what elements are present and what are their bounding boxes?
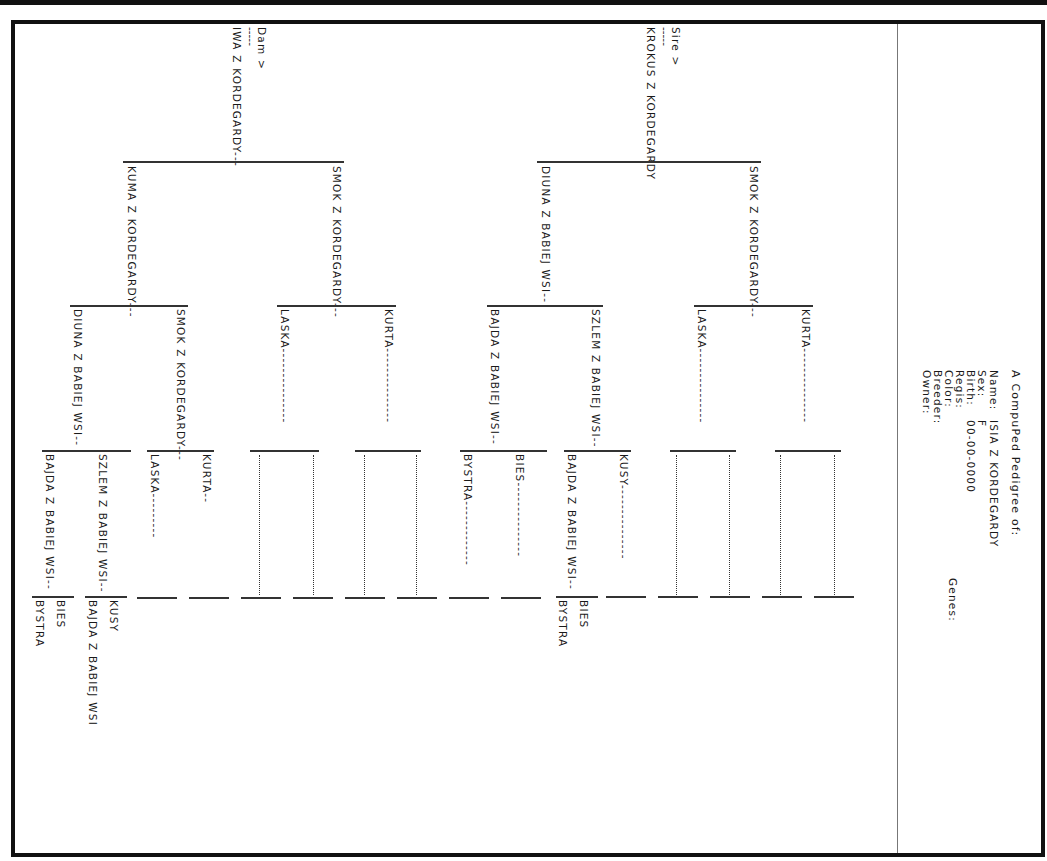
ssd-gen4-bar	[670, 450, 736, 452]
dam-gen2-bar	[123, 161, 344, 163]
sdsd-gen5-bar	[556, 596, 598, 598]
pedigree-connector	[834, 455, 835, 595]
pedigree-connector	[313, 455, 314, 595]
pedigree-connector	[729, 455, 730, 595]
sdss-name: KUSY---------------	[618, 454, 629, 560]
dddd-gen5-bar	[32, 596, 74, 598]
sddd-name: BYSTRA-------------	[462, 454, 473, 566]
dddd-name: BAJDA Z BABIEJ WSI--	[44, 454, 55, 590]
empty-gen5-bar	[293, 597, 333, 599]
regis-label: Regis:	[954, 370, 965, 409]
dam-heading: Dam >	[256, 27, 267, 70]
sss-name: KURTA---------------	[800, 309, 811, 423]
sire-sire-gen3-bar	[694, 305, 813, 307]
dam-name: IWA Z KORDEGARDY---	[231, 27, 242, 167]
info-panel-divider	[897, 24, 898, 853]
sire-heading: Sire >	[670, 27, 681, 66]
ddds-name: SZLEM Z BABIEJ WSI--	[97, 454, 108, 593]
previous-page-edge	[0, 0, 1047, 5]
sdd-name: BAJDA Z BABIEJ WSI--	[489, 309, 500, 445]
ddss-name: KURTA--	[201, 454, 212, 503]
breeder-label: Breeder:	[932, 370, 943, 425]
sdsdd-name: BYSTRA	[557, 600, 568, 647]
sire-dashes: -----	[659, 27, 670, 46]
pedigree-connector	[259, 455, 260, 595]
empty-gen5-bar	[189, 597, 229, 599]
birth-value: 00-00-0000	[965, 420, 976, 493]
sss-gen4-bar	[775, 450, 841, 452]
sire-name: KROKUS Z KORDEGARDY	[645, 27, 656, 180]
ddds-gen5-bar	[85, 596, 127, 598]
dam-dam-name: KUMA Z KORDEGARDY---	[126, 166, 137, 318]
dam-dam-gen3-bar	[70, 305, 188, 307]
sire-gen2-bar	[537, 161, 761, 163]
empty-gen5-bar	[345, 597, 385, 599]
dddss-name: KUSY	[108, 600, 119, 632]
sdds-name: BIES---------------	[514, 454, 525, 557]
ddddd-name: BYSTRA	[34, 600, 45, 647]
empty-gen5-bar	[137, 597, 177, 599]
ddd-name: DIUNA Z BABIEJ WSI--	[72, 309, 83, 446]
sdsds-name: BIES	[578, 600, 589, 628]
document-title: A CompuPed Pedigree of:	[1010, 370, 1021, 536]
sdd-gen4-bar	[460, 450, 547, 452]
dddsd-name: BAJDA Z BABIEJ WSI	[87, 600, 98, 726]
ddd-gen4-bar	[42, 450, 131, 452]
owner-label: Owner:	[921, 370, 932, 415]
color-label: Color:	[943, 370, 954, 408]
empty-gen5-bar	[658, 596, 698, 598]
empty-gen5-bar	[762, 596, 802, 598]
pedigree-connector	[780, 455, 781, 595]
sire-dam-gen3-bar	[487, 305, 603, 307]
name-label: Name:	[988, 370, 999, 411]
empty-gen5-bar	[241, 597, 281, 599]
empty-gen5-bar	[606, 596, 646, 598]
dds-name: SMOK Z KORDEGARDY---	[175, 309, 186, 461]
sex-label: Sex:	[976, 370, 987, 398]
dsd-name: LASKA---------------	[279, 309, 290, 423]
name-value: ISIA Z KORDEGARDY	[988, 420, 999, 547]
empty-gen5-bar	[397, 597, 437, 599]
sds-gen4-bar	[564, 450, 631, 452]
dam-sire-gen3-bar	[277, 305, 396, 307]
dss-gen4-bar	[355, 450, 421, 452]
sire-sire-name: SMOK Z KORDEGARDY---	[748, 166, 759, 318]
ddsd-name: LASKA---------	[149, 454, 160, 539]
pedigree-connector	[416, 455, 417, 595]
dss-name: KURTA---------------	[383, 309, 394, 423]
genes-label: Genes:	[947, 578, 958, 622]
ssd-name: LASKA---------------	[696, 309, 707, 423]
empty-gen5-bar	[501, 597, 541, 599]
dsd-gen4-bar	[250, 450, 319, 452]
empty-gen5-bar	[710, 596, 750, 598]
sdsd-name: BAJDA Z BABIEJ WSI--	[566, 454, 577, 590]
pedigree-connector	[676, 455, 677, 595]
empty-gen5-bar	[449, 597, 489, 599]
dam-dashes: -----	[245, 27, 256, 46]
sire-dam-name: DIUNA Z BABIEJ WSI--	[540, 166, 551, 303]
pedigree-connector	[364, 455, 365, 595]
pedigree-page-frame	[11, 20, 1045, 857]
empty-gen5-bar	[814, 596, 854, 598]
dam-sire-name: SMOK Z KORDEGARDY---	[331, 166, 342, 318]
dds-gen4-bar	[147, 450, 214, 452]
dddds-name: BIES	[55, 600, 66, 628]
sds-name: SZLEM Z BABIEJ WSI--	[590, 309, 601, 448]
birth-label: Birth:	[965, 370, 976, 406]
sex-value: F	[976, 420, 987, 427]
